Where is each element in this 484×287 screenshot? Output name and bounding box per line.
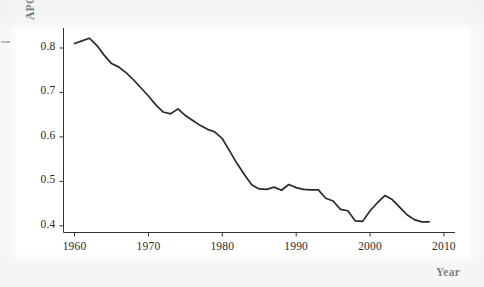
axes-group bbox=[64, 28, 456, 233]
series-line-apc bbox=[75, 38, 430, 222]
page-edge-artifact bbox=[1, 41, 10, 43]
chart-canvas bbox=[0, 0, 484, 287]
figure-page: APC Year 0.40.50.60.70.81960197019801990… bbox=[0, 0, 484, 287]
y-tick-marks bbox=[60, 48, 64, 226]
x-tick-marks bbox=[75, 233, 444, 237]
data-series-group bbox=[75, 38, 430, 222]
